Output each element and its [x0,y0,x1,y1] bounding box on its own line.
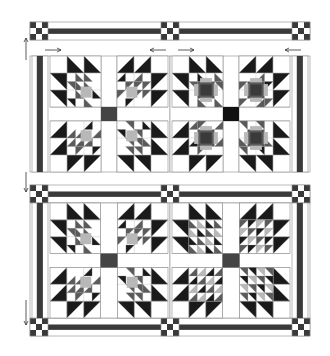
nine-patch-cell [167,197,173,203]
nine-patch-cell [161,22,167,28]
nine-patch-cell [292,330,298,336]
nine-patch-cell [292,197,298,203]
nine-patch-cell [298,28,304,34]
nine-patch-cell [36,191,42,197]
nine-patch-cell [36,330,42,336]
cornerstone-bottom-right [292,318,310,336]
nine-patch-cell [30,197,36,203]
cornerstone-mid-left [30,185,48,203]
nine-patch-cell [298,318,304,324]
center-square [81,87,92,98]
nine-patch-cell [304,197,310,203]
nine-patch-cell [298,22,304,28]
cornerstone-top-right [292,22,310,40]
nine-patch-cell [36,318,42,324]
bear-paw-block [172,56,223,107]
nine-patch-cell [161,34,167,40]
nine-patch-cell [304,34,310,40]
panel-side-sash [292,56,308,172]
bear-paw-block [50,56,101,107]
nine-patch-cell [304,185,310,191]
center-bar [264,84,268,96]
nine-patch-cell [42,330,48,336]
nine-patch-cell [167,34,173,40]
center-square [127,233,138,244]
sash-stripe [297,56,303,172]
nine-patch-cell [42,197,48,203]
bear-paw-block [118,203,169,254]
nine-patch-cell [161,324,167,330]
center-bar [244,84,248,96]
center-bar [250,146,262,150]
sash-stripe [297,203,303,318]
bear-paw-block [172,121,223,172]
bear-paw-block [117,56,168,107]
panel-side-sash [292,203,308,318]
nine-patch-cell [36,22,42,28]
bear-paw-block [172,203,223,254]
nine-patch-cell [173,318,179,324]
nine-patch-cell [304,324,310,330]
nine-patch-cell [304,191,310,197]
center-bar [200,146,212,150]
nine-patch-cell [292,185,298,191]
center-square [250,132,261,143]
panel-side-sash [32,203,48,318]
center-square [81,130,92,141]
nine-patch-cell [167,324,173,330]
nine-patch-cell [173,185,179,191]
nine-patch-cell [161,318,167,324]
nine-patch-cell [161,197,167,203]
nine-patch-cell [36,28,42,34]
sash-stripe [37,203,43,318]
nine-patch-cell [36,185,42,191]
nine-patch-cell [292,324,298,330]
panel-center-square [223,107,239,121]
center-bar [200,126,212,130]
nine-patch-cell [298,324,304,330]
center-bar [250,126,262,130]
bear-paw-block [240,203,291,254]
nine-patch-cell [304,330,310,336]
nine-patch-cell [42,34,48,40]
nine-patch-cell [30,22,36,28]
nine-patch-cell [30,330,36,336]
center-bar [244,132,248,144]
nine-patch-cell [167,185,173,191]
center-square [126,87,137,98]
nine-patch-cell [167,330,173,336]
nine-patch-cell [292,28,298,34]
center-bar [264,132,268,144]
cornerstone-top-middle [161,22,179,40]
nine-patch-cell [30,324,36,330]
center-square [127,277,138,288]
bear-paw-block [239,56,290,107]
nine-patch-cell [161,330,167,336]
nine-patch-cell [36,34,42,40]
nine-patch-cell [42,28,48,34]
center-bar [194,84,198,96]
nine-patch-cell [298,34,304,40]
nine-patch-cell [42,324,48,330]
center-square [250,84,261,95]
sash-stripe [37,56,43,172]
nine-patch-cell [298,185,304,191]
nine-patch-cell [298,191,304,197]
bear-paw-block [117,121,168,172]
center-square [200,84,211,95]
center-square [200,132,211,143]
nine-patch-cell [30,28,36,34]
nine-patch-cell [292,34,298,40]
cornerstone-bottom-left [30,318,48,336]
nine-patch-cell [36,197,42,203]
nine-patch-cell [167,22,173,28]
nine-patch-cell [173,191,179,197]
nine-patch-cell [173,22,179,28]
nine-patch-cell [173,28,179,34]
nine-patch-cell [30,318,36,324]
panel-side-sash [32,56,48,172]
nine-patch-cell [304,22,310,28]
nine-patch-cell [167,28,173,34]
nine-patch-cell [36,324,42,330]
center-bar [250,98,262,102]
